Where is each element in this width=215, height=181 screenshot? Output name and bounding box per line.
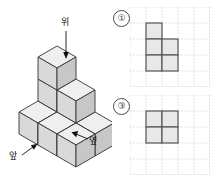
option-1-number: ① xyxy=(113,10,130,27)
label-top: 위 xyxy=(61,18,69,27)
problem-figure-panel: 위 앞 옆 ① xyxy=(0,0,215,181)
option-1-grid-svg xyxy=(130,7,210,87)
option-3-number: ③ xyxy=(113,98,130,115)
option-3-grid xyxy=(130,95,210,175)
front-arrow-head xyxy=(31,144,38,150)
option-3[interactable]: ③ xyxy=(110,90,215,178)
option-1-cells xyxy=(146,23,178,71)
option-list: ① xyxy=(110,0,215,181)
isometric-figure: 위 앞 옆 xyxy=(0,0,112,181)
option-1[interactable]: ① xyxy=(110,2,215,90)
option-1-grid xyxy=(130,7,210,87)
option-3-grid-svg xyxy=(130,95,210,175)
label-front: 앞 xyxy=(9,152,17,161)
front-arrow xyxy=(22,147,33,155)
label-side: 옆 xyxy=(89,137,97,146)
option-3-cells xyxy=(146,111,178,143)
